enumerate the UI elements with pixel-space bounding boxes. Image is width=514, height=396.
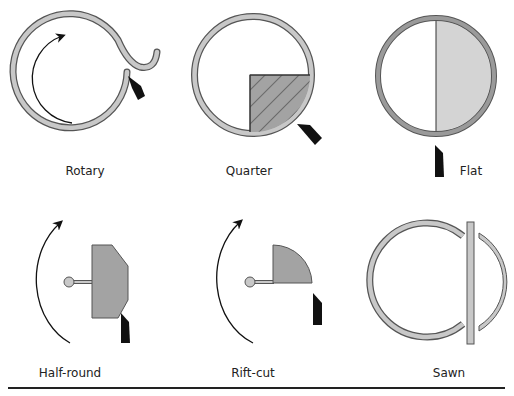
- log-ring: [13, 14, 157, 128]
- diagram-canvas: [0, 0, 514, 396]
- panel-quarter: [195, 17, 323, 146]
- label-quarter: Quarter: [226, 164, 272, 178]
- veneer-cutting-diagram: Rotary Quarter Flat Half-round Rift-cut …: [0, 0, 514, 396]
- quarter-flitch-shape: [273, 245, 312, 283]
- panel-rotary: [13, 14, 157, 128]
- knife-icon: [435, 145, 444, 177]
- panel-half-round: [36, 223, 130, 343]
- hub-icon: [245, 277, 255, 287]
- knife-icon: [297, 124, 322, 145]
- label-rotary: Rotary: [65, 164, 104, 178]
- label-sawn: Sawn: [433, 366, 465, 380]
- knife-icon: [313, 293, 322, 325]
- label-half-round: Half-round: [39, 366, 101, 380]
- flitch-shape: [92, 245, 128, 318]
- half-log-flitch: [436, 15, 498, 140]
- label-rift-cut: Rift-cut: [231, 366, 275, 380]
- panel-rift-cut: [217, 222, 322, 343]
- panel-sawn: [370, 222, 507, 344]
- rotation-arrow-icon: [32, 36, 72, 123]
- label-flat: Flat: [460, 164, 482, 178]
- saw-board: [467, 222, 474, 344]
- knife-icon: [121, 313, 130, 343]
- knife-icon: [128, 76, 145, 100]
- hub-icon: [64, 277, 74, 287]
- panel-flat: [378, 15, 498, 177]
- slab-sliver: [479, 233, 507, 331]
- bottom-rule: [8, 387, 505, 389]
